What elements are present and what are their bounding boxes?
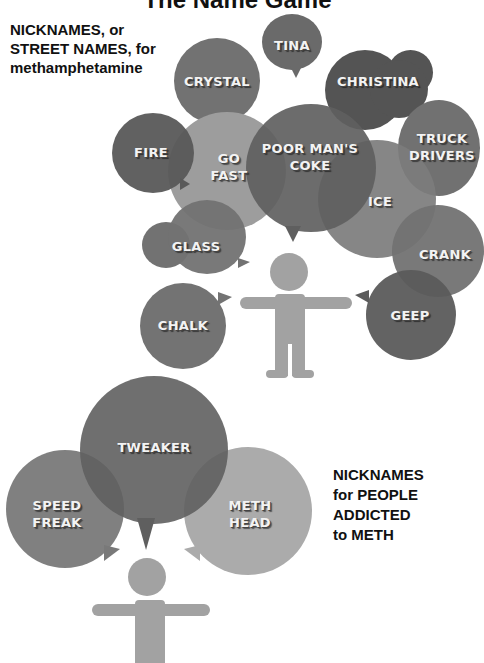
label-truck-drivers: TRUCK DRIVERS <box>400 130 484 164</box>
figure-foot <box>292 370 314 378</box>
label-meth-head: METH HEAD <box>222 497 278 531</box>
caption-line: ADDICTED <box>333 505 424 525</box>
people-names-caption: NICKNAMES for PEOPLE ADDICTED to METH <box>333 465 424 545</box>
bubble-tail <box>218 292 232 305</box>
label-tina: TINA <box>268 37 316 54</box>
caption-line: NICKNAMES, or <box>10 20 156 39</box>
label-line: FAST <box>206 167 252 184</box>
bubble-tail <box>180 178 190 190</box>
figure-head <box>270 253 308 291</box>
street-names-caption: NICKNAMES, or STREET NAMES, for methamph… <box>10 20 156 77</box>
figure-torso <box>275 294 305 344</box>
label-line: TRUCK <box>400 130 484 147</box>
caption-line: for PEOPLE <box>333 485 424 505</box>
label-line: FREAK <box>22 514 92 531</box>
label-line: SPEED <box>22 497 92 514</box>
caption-line: to METH <box>333 525 424 545</box>
label-tweaker: TWEAKER <box>108 439 200 456</box>
label-line: DRIVERS <box>400 147 484 164</box>
bubble-tail <box>290 66 302 78</box>
label-christina: CHRISTINA <box>330 73 426 90</box>
label-crank: CRANK <box>410 246 480 263</box>
bubble-tail <box>238 258 250 268</box>
label-chalk: CHALK <box>150 317 216 334</box>
label-geep: GEEP <box>380 307 440 324</box>
label-line: METH <box>222 497 278 514</box>
bubble-tail <box>285 226 301 242</box>
label-line: COKE <box>250 157 370 174</box>
figure-torso <box>135 600 165 663</box>
label-line: GO <box>206 150 252 167</box>
figure-head <box>128 558 166 596</box>
caption-line: methamphetamine <box>10 58 156 77</box>
bubble-tail <box>355 290 369 303</box>
label-line: HEAD <box>222 514 278 531</box>
label-go-fast: GO FAST <box>206 150 252 184</box>
label-glass: GLASS <box>164 238 228 255</box>
page-title: The Name Game <box>0 0 475 14</box>
caption-line: NICKNAMES <box>333 465 424 485</box>
label-ice: ICE <box>362 193 398 210</box>
figure-foot <box>266 370 288 378</box>
label-crystal: CRYSTAL <box>176 73 258 90</box>
bubble-tail <box>184 545 200 561</box>
label-line: POOR MAN'S <box>250 140 370 157</box>
label-poor-mans-coke: POOR MAN'S COKE <box>250 140 370 174</box>
bubble-tail <box>137 518 155 550</box>
caption-line: STREET NAMES, for <box>10 39 156 58</box>
bubble-glass <box>168 200 246 274</box>
label-fire: FIRE <box>128 144 174 161</box>
label-speed-freak: SPEED FREAK <box>22 497 92 531</box>
bubble-tail <box>104 545 120 561</box>
